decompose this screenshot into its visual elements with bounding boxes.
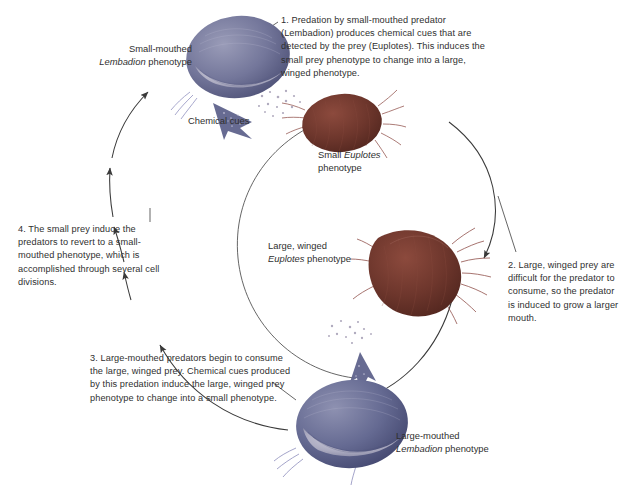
- label-large-mouthed-lembadion: Large-mouthed Lembadion phenotype: [396, 429, 536, 455]
- label-line-2: phenotype: [146, 56, 192, 67]
- label-line-2: phenotype: [318, 162, 362, 173]
- label-line-1: Large-mouthed: [396, 430, 460, 441]
- label-chemical-cues: Chemical cues: [188, 114, 280, 127]
- step-2-caption: 2. Large, winged prey are difficult for …: [508, 259, 620, 325]
- diagram-canvas: 1. Predation by small-mouthed predator (…: [0, 0, 623, 491]
- label-line-1: Small-mouthed: [129, 43, 192, 54]
- genus-name: Euplotes: [344, 149, 380, 160]
- label-large-winged-euplotes: Large, winged Euplotes phenotype: [268, 239, 390, 265]
- label-line-2: phenotype: [304, 253, 350, 264]
- genus-name: Lembadion: [396, 443, 442, 454]
- chemical-cue-dots-bottom: [328, 320, 372, 344]
- label-line-2: phenotype: [442, 443, 488, 454]
- step-3-caption: 3. Large-mouthed predators begin to cons…: [90, 352, 298, 405]
- label-line-1: Large, winged: [268, 240, 327, 251]
- step-4-caption: 4. The small prey induce the predators t…: [18, 223, 170, 289]
- genus-name: Euplotes: [268, 253, 304, 264]
- label-line-1: Small: [318, 149, 344, 160]
- chemical-cue-dots-top: [258, 90, 301, 117]
- label-small-euplotes: Small Euplotes phenotype: [318, 148, 436, 174]
- label-small-mouthed-lembadion: Small-mouthed Lembadion phenotype: [66, 42, 192, 68]
- step-1-caption: 1. Predation by small-mouthed predator (…: [281, 14, 493, 80]
- genus-name: Lembadion: [99, 56, 145, 67]
